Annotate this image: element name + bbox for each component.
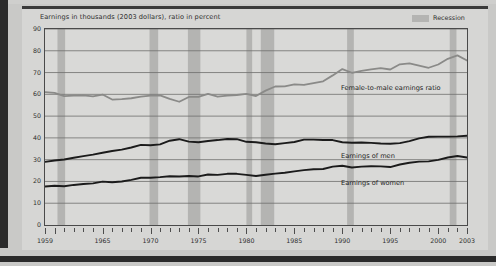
- x-tick: [64, 228, 65, 232]
- y-tick-label: 70: [33, 68, 41, 75]
- y-tick-label: 0: [37, 221, 41, 228]
- x-tick: [141, 228, 142, 232]
- x-tick: [419, 228, 420, 232]
- x-tick: [170, 228, 171, 232]
- x-tick: [362, 228, 363, 232]
- x-tick: [294, 228, 295, 234]
- recession-band: [150, 29, 159, 225]
- y-tick-label: 60: [33, 90, 41, 97]
- x-tick: [448, 228, 449, 232]
- x-tick: [409, 228, 410, 232]
- x-tick: [45, 228, 46, 234]
- x-tick: [179, 228, 180, 232]
- legend: Recession: [412, 14, 465, 22]
- legend-swatch-recession: [412, 15, 429, 22]
- y-tick-label: 10: [33, 199, 41, 206]
- plot-area: [44, 28, 468, 226]
- x-tick-label: 1975: [190, 237, 206, 244]
- series-line: [45, 55, 467, 101]
- x-tick: [323, 228, 324, 232]
- x-tick: [237, 228, 238, 232]
- x-tick: [275, 228, 276, 232]
- x-tick-label: 1990: [334, 237, 350, 244]
- left-edge-bar: [0, 0, 8, 248]
- series-annotation: Earnings of men: [341, 152, 395, 160]
- x-tick-label: 1985: [286, 237, 302, 244]
- x-tick: [438, 228, 439, 234]
- x-tick: [198, 228, 199, 234]
- x-tick-label: 1965: [95, 237, 111, 244]
- x-tick: [342, 228, 343, 234]
- y-tick-label: 50: [33, 112, 41, 119]
- recession-band: [188, 29, 200, 225]
- y-tick-label: 90: [33, 25, 41, 32]
- x-tick: [467, 228, 468, 234]
- x-tick: [112, 228, 113, 232]
- recession-band: [261, 29, 274, 225]
- x-tick: [103, 228, 104, 234]
- chart-canvas: [45, 29, 467, 225]
- x-tick: [55, 228, 56, 234]
- screenshot-root: Earnings in thousands (2003 dollars), ra…: [0, 0, 496, 266]
- legend-label-recession: Recession: [433, 14, 465, 22]
- x-tick: [400, 228, 401, 232]
- x-tick: [227, 228, 228, 232]
- x-tick: [285, 228, 286, 232]
- x-tick: [74, 228, 75, 232]
- x-tick: [457, 228, 458, 232]
- series-line: [45, 136, 467, 162]
- recession-band: [246, 29, 252, 225]
- x-tick-label: 2000: [430, 237, 446, 244]
- y-axis: 9080706050403020100: [22, 22, 44, 232]
- y-tick-label: 80: [33, 46, 41, 53]
- x-tick-label: 1959: [37, 237, 53, 244]
- x-tick: [390, 228, 391, 234]
- x-tick: [371, 228, 372, 232]
- x-tick-label: 1980: [238, 237, 254, 244]
- x-tick: [246, 228, 247, 234]
- recession-band: [57, 29, 65, 225]
- x-tick: [151, 228, 152, 234]
- recession-band: [347, 29, 354, 225]
- series-annotation: Earnings of women: [341, 179, 404, 187]
- x-tick: [381, 228, 382, 232]
- x-tick: [429, 228, 430, 232]
- x-tick: [83, 228, 84, 232]
- x-tick-label: 1995: [382, 237, 398, 244]
- figure-top-rule: [22, 6, 488, 9]
- x-axis: 1959196519701975198019851990199520002003: [44, 228, 470, 250]
- x-tick: [304, 228, 305, 232]
- x-tick: [256, 228, 257, 232]
- x-tick: [352, 228, 353, 232]
- x-tick: [333, 228, 334, 232]
- x-tick-label: 1970: [142, 237, 158, 244]
- x-tick: [266, 228, 267, 232]
- chart-title: Earnings in thousands (2003 dollars), ra…: [40, 13, 220, 21]
- y-tick-label: 20: [33, 177, 41, 184]
- bottom-edge-bar: [0, 256, 496, 262]
- x-tick: [160, 228, 161, 232]
- x-tick: [122, 228, 123, 232]
- y-tick-label: 40: [33, 133, 41, 140]
- x-tick: [218, 228, 219, 232]
- x-tick: [93, 228, 94, 232]
- x-tick: [208, 228, 209, 232]
- x-tick: [314, 228, 315, 232]
- x-tick: [131, 228, 132, 232]
- top-edge-strip: [8, 0, 496, 4]
- y-tick-label: 30: [33, 155, 41, 162]
- series-annotation: Female-to-male earnings ratio: [341, 84, 441, 92]
- x-tick: [189, 228, 190, 232]
- plot-inner: [45, 29, 467, 225]
- x-tick-label: 2003: [459, 237, 475, 244]
